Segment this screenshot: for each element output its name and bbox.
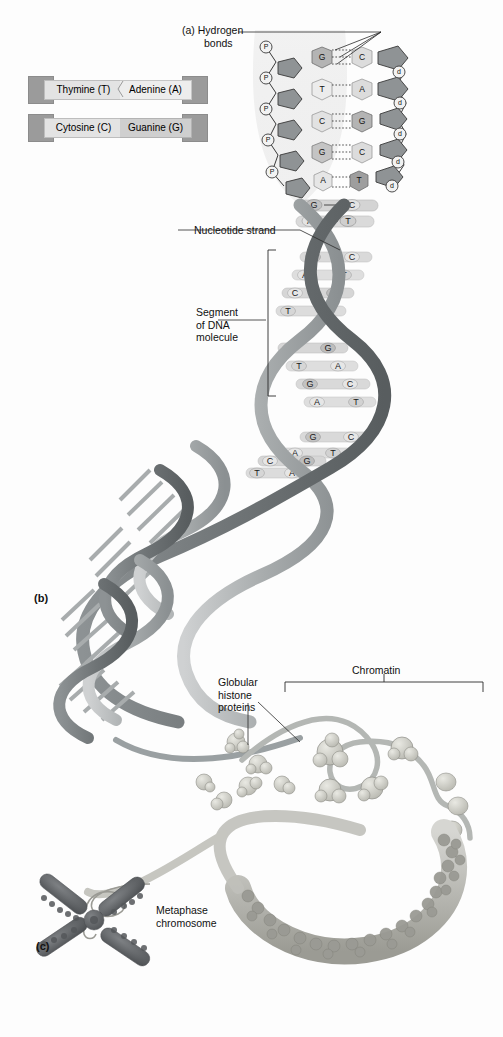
figure-canvas: Thymine (T) Adenine (A) Cytosine (C) Gua… [0,0,503,1037]
segment-rungs: G C A T C G T A [276,252,376,407]
hydrogen-bonds-line1: Hydrogen [198,24,244,36]
svg-text:C: C [359,52,365,62]
svg-text:T: T [353,397,359,407]
histone-line3: proteins [218,701,255,713]
dna-illustration: P P P P P [0,0,503,1037]
dna-tail [116,738,300,759]
svg-text:d: d [398,99,402,106]
svg-text:T: T [254,468,260,478]
svg-text:P: P [270,168,275,175]
right-backbone: d d d d d [376,46,408,192]
svg-text:T: T [356,175,361,185]
svg-text:T: T [345,216,351,226]
svg-text:d: d [397,68,401,75]
svg-text:C: C [348,432,355,442]
svg-text:C: C [359,147,365,157]
panel-a-detail: P P P P P [238,30,408,205]
svg-text:C: C [267,456,274,466]
svg-text:P: P [266,136,271,143]
svg-text:T: T [296,361,302,371]
svg-text:C: C [349,252,356,262]
svg-text:d: d [396,158,400,165]
svg-text:G: G [303,456,310,466]
segment-line3: molecule [196,331,238,343]
svg-text:A: A [359,84,365,94]
svg-text:T: T [319,84,324,94]
svg-text:T: T [285,306,291,316]
nucleotide-strand-label: Nucleotide strand [194,224,276,237]
hydrogen-bonds-line2: bonds [204,37,233,50]
svg-text:G: G [319,52,326,62]
svg-text:P: P [264,105,269,112]
svg-text:G: G [319,147,326,157]
svg-text:G: G [309,432,316,442]
panel-b-tag: (b) [34,592,48,604]
globular-histone-label: Globularhistoneproteins [218,676,258,714]
svg-text:d: d [398,130,402,137]
metaphase-chromosome-shape [34,871,153,969]
histone-line2: histone [218,689,252,701]
segment-line1: Segment [196,306,238,318]
svg-text:A: A [335,361,341,371]
segment-of-dna-label: Segmentof DNAmolecule [196,306,238,344]
svg-text:C: C [319,116,325,126]
chromatin-label: Chromatin [352,664,400,677]
svg-text:d: d [390,182,394,189]
hydrogen-bonds-label: (a) Hydrogenbonds [182,24,243,49]
svg-text:C: C [292,288,299,298]
svg-text:C: C [347,379,354,389]
metaphase-line2: chromosome [156,917,217,929]
histone-line1: Globular [218,676,258,688]
svg-text:T: T [330,448,336,458]
metaphase-line1: Metaphase [156,904,208,916]
panel-a-tag: (a) [182,24,195,36]
svg-text:P: P [264,74,269,81]
chromatin-bracket [285,682,483,692]
segment-line2: of DNA [196,319,230,331]
metaphase-chromosome-label: Metaphasechromosome [156,904,217,929]
panel-c-tag: (c) [36,940,49,952]
svg-text:A: A [320,175,326,185]
svg-text:P: P [264,43,269,50]
svg-text:G: G [306,379,313,389]
svg-text:A: A [314,397,320,407]
svg-text:G: G [359,116,366,126]
svg-text:G: G [324,343,331,353]
